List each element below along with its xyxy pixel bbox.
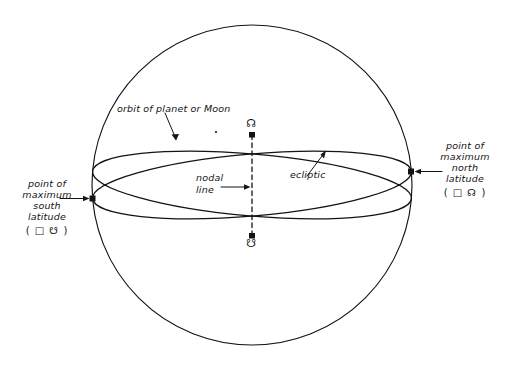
ascending-node-marker <box>249 132 255 138</box>
max-north-latitude-label-line4: latitude <box>428 173 502 185</box>
max-north-latitude-label-line3: north <box>428 162 502 174</box>
max-north-latitude-symbols: ( □ ☊ ) <box>428 187 502 199</box>
max-south-latitude-label-line1: point of <box>10 178 84 190</box>
nodal-line-label-line1: nodal <box>196 172 223 184</box>
max-south-latitude-label-line4: latitude <box>10 211 84 223</box>
nodal-line-arrowhead <box>244 184 251 189</box>
descending-node-glyph: ☋ <box>246 238 256 249</box>
astronomy-diagram: ☊ ☋ orbit of planet or Moon ecliptic nod… <box>0 0 505 365</box>
max-south-latitude-label-line2: maximum <box>10 189 84 201</box>
max-north-latitude-marker <box>408 169 414 175</box>
max-south-latitude-symbols: ( □ ☋ ) <box>10 225 84 237</box>
orbit-leader-arrowhead <box>172 134 180 141</box>
max-north-latitude-label-line2: maximum <box>428 151 502 163</box>
max-north-latitude-label-line1: point of <box>428 140 502 152</box>
max-south-latitude-marker <box>90 196 96 202</box>
ascending-node-glyph: ☊ <box>246 118 256 129</box>
stray-mark-dot <box>215 131 217 133</box>
north-label-arrowhead <box>415 169 422 174</box>
max-south-latitude-label-line3: south <box>10 200 84 212</box>
orbit-label: orbit of planet or Moon <box>117 103 231 115</box>
ecliptic-label: ecliptic <box>290 169 326 181</box>
nodal-line-label-line2: line <box>196 184 214 196</box>
